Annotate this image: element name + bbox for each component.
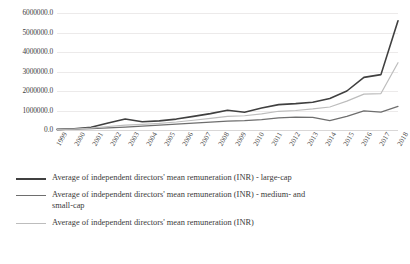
legend-swatch-icon xyxy=(16,195,46,196)
x-axis-tick-label: 2017 xyxy=(378,131,392,147)
legend-item-medium-small-cap: Average of independent directors' mean r… xyxy=(16,189,394,212)
x-axis-tick-label: 2008 xyxy=(216,131,230,147)
y-axis-tick-label: 1000000.0 xyxy=(22,107,53,115)
series-lines xyxy=(57,13,398,130)
x-axis-tick-label: 2014 xyxy=(324,131,338,147)
x-axis-tick-label: 2004 xyxy=(145,131,159,147)
x-axis-tick-label: 2000 xyxy=(73,131,87,147)
x-axis-tick-label: 2006 xyxy=(180,131,194,147)
plot-area xyxy=(57,13,398,130)
x-axis-tick-label: 2003 xyxy=(127,131,141,147)
x-axis-tick-label: 2018 xyxy=(396,131,410,147)
x-axis-tick-label: 2011 xyxy=(270,131,284,147)
x-axis-tick-label: 2002 xyxy=(109,131,123,147)
legend-swatch-icon xyxy=(16,178,46,180)
legend-item-large-cap: Average of independent directors' mean r… xyxy=(16,172,394,184)
x-axis-tick-label: 2001 xyxy=(91,131,105,147)
x-axis-tick-label: 2009 xyxy=(234,131,248,147)
chart-legend: Average of independent directors' mean r… xyxy=(16,172,394,233)
legend-label: Average of independent directors' mean r… xyxy=(52,172,292,184)
x-axis-tick-label: 2015 xyxy=(342,131,356,147)
y-axis: 0.01000000.02000000.03000000.04000000.05… xyxy=(0,0,55,130)
y-axis-tick-label: 6000000.0 xyxy=(22,9,53,17)
x-axis-tick-label: 2005 xyxy=(162,131,176,147)
y-axis-tick-label: 0.0 xyxy=(44,126,53,134)
x-axis-tick-label: 2007 xyxy=(198,131,212,147)
legend-label: Average of independent directors' mean r… xyxy=(52,217,254,229)
x-axis-tick-label: 2016 xyxy=(360,131,374,147)
x-axis: 1999200020012002200320042005200620072008… xyxy=(57,131,398,163)
legend-item-overall: Average of independent directors' mean r… xyxy=(16,217,394,229)
legend-swatch-icon xyxy=(16,223,46,224)
x-axis-tick-label: 2012 xyxy=(288,131,302,147)
series-line xyxy=(57,63,398,130)
x-axis-tick-label: 1999 xyxy=(55,131,69,147)
y-axis-tick-label: 5000000.0 xyxy=(22,29,53,37)
x-axis-tick-label: 2010 xyxy=(252,131,266,147)
y-axis-tick-label: 3000000.0 xyxy=(22,68,53,76)
legend-label: Average of independent directors' mean r… xyxy=(52,189,320,212)
x-axis-tick-label: 2013 xyxy=(306,131,320,147)
y-axis-tick-label: 2000000.0 xyxy=(22,87,53,95)
y-axis-tick-label: 4000000.0 xyxy=(22,48,53,56)
series-line xyxy=(57,21,398,130)
